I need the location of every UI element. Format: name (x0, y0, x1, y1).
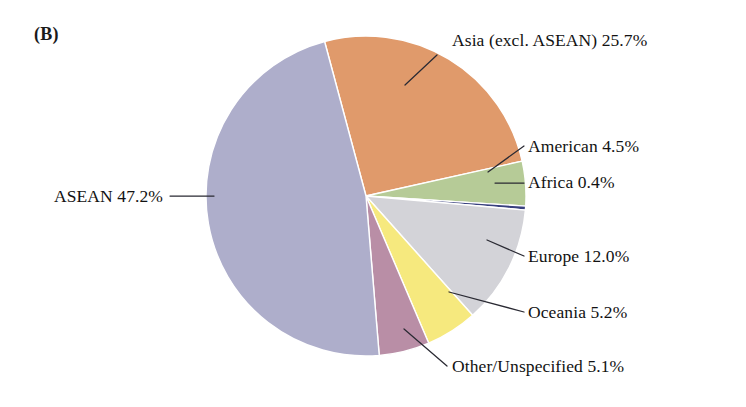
slice-label-other-unspecified: Other/Unspecified 5.1% (452, 356, 624, 376)
slice-label-american: American 4.5% (528, 136, 639, 156)
slice-label-asean: ASEAN 47.2% (54, 186, 163, 206)
slice-label-africa: Africa 0.4% (528, 172, 615, 192)
figure-panel-b: (B) Asia (excl. ASEAN) 25.7%American 4.5… (0, 0, 746, 407)
pie-slices-group (206, 36, 526, 356)
pie-chart: Asia (excl. ASEAN) 25.7%American 4.5%Afr… (0, 0, 746, 407)
slice-label-asia-excl-asean: Asia (excl. ASEAN) 25.7% (452, 30, 647, 50)
slice-label-oceania: Oceania 5.2% (528, 302, 627, 322)
slice-label-europe: Europe 12.0% (528, 246, 629, 266)
